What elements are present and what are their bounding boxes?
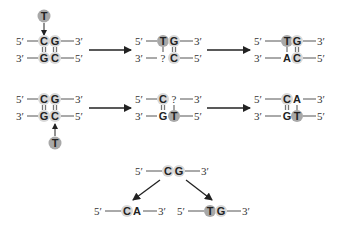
row1-panel-a: T 5′ C G 3′ 3′ G C 5′ <box>16 10 83 65</box>
svg-text:G: G <box>40 110 49 122</box>
svg-text:T: T <box>171 110 178 122</box>
row3-left-product: 5′ C A 3′ <box>94 205 166 217</box>
svg-text:5′: 5′ <box>94 205 102 217</box>
svg-text:3′: 3′ <box>194 93 202 105</box>
branch-arrow-left <box>133 180 160 200</box>
svg-text:5′: 5′ <box>317 52 325 64</box>
svg-text:C: C <box>51 110 59 122</box>
svg-text:C: C <box>164 165 172 177</box>
row2-panel-b: 5′ C ? 3′ 3′ G T 5′ <box>135 93 202 122</box>
svg-text:5′: 5′ <box>194 110 202 122</box>
svg-text:3′: 3′ <box>201 165 209 177</box>
svg-text:3′: 3′ <box>254 52 262 64</box>
svg-text:C: C <box>123 205 131 217</box>
incoming-t-label: T <box>52 137 59 149</box>
row3-right-product: 5′ T G 3′ <box>177 205 250 217</box>
svg-text:5′: 5′ <box>254 35 262 47</box>
row2-panel-c: 5′ C A 3′ 3′ G T 5′ <box>254 93 325 122</box>
svg-text:G: G <box>170 35 179 47</box>
svg-text:A: A <box>133 205 141 217</box>
svg-text:C: C <box>40 93 48 105</box>
svg-text:C: C <box>40 35 48 47</box>
row1-panel-b: 5′ T G 3′ 3′ ? C 5′ <box>135 35 202 64</box>
svg-text:G: G <box>40 52 49 64</box>
five-prime-label: 5′ <box>16 35 24 47</box>
svg-text:G: G <box>159 110 168 122</box>
incoming-t-label: T <box>41 10 48 22</box>
svg-text:5′: 5′ <box>317 110 325 122</box>
svg-text:3′: 3′ <box>158 205 166 217</box>
svg-text:5′: 5′ <box>75 52 83 64</box>
svg-text:5′: 5′ <box>194 52 202 64</box>
svg-text:3′: 3′ <box>135 52 143 64</box>
svg-text:3′: 3′ <box>317 35 325 47</box>
svg-text:G: G <box>175 165 184 177</box>
svg-text:3′: 3′ <box>242 205 250 217</box>
svg-text:A: A <box>283 52 291 64</box>
svg-text:C: C <box>170 52 178 64</box>
row3-parent: 5′ C G 3′ <box>135 165 209 177</box>
svg-text:T: T <box>207 205 214 217</box>
svg-text:3′: 3′ <box>135 110 143 122</box>
svg-text:T: T <box>160 35 167 47</box>
svg-text:5′: 5′ <box>177 205 185 217</box>
svg-text:3′: 3′ <box>75 93 83 105</box>
svg-text:C: C <box>159 93 167 105</box>
svg-text:G: G <box>217 205 226 217</box>
row1-panel-c: 5′ T G 3′ 3′ A C 5′ <box>254 35 325 64</box>
svg-text:G: G <box>293 35 302 47</box>
dna-mutation-diagram: T 5′ C G 3′ 3′ G C 5′ 5′ T G 3′ <box>0 0 340 226</box>
svg-text:5′: 5′ <box>135 165 143 177</box>
svg-text:A: A <box>293 93 301 105</box>
svg-text:3′: 3′ <box>194 35 202 47</box>
svg-text:5′: 5′ <box>16 93 24 105</box>
svg-text:C: C <box>293 52 301 64</box>
svg-text:5′: 5′ <box>75 110 83 122</box>
svg-text:3′: 3′ <box>317 93 325 105</box>
svg-text:T: T <box>284 35 291 47</box>
row2-panel-a: 5′ C G 3′ 3′ G C 5′ T <box>16 93 83 150</box>
svg-text:3′: 3′ <box>254 110 262 122</box>
svg-text:5′: 5′ <box>135 35 143 47</box>
svg-text:3′: 3′ <box>16 110 24 122</box>
svg-text:G: G <box>51 93 60 105</box>
svg-text:G: G <box>51 35 60 47</box>
svg-text:3′: 3′ <box>16 52 24 64</box>
unknown-base: ? <box>172 93 177 105</box>
svg-text:C: C <box>283 93 291 105</box>
unknown-base: ? <box>161 52 166 64</box>
three-prime-label: 3′ <box>75 35 83 47</box>
svg-text:C: C <box>51 52 59 64</box>
svg-text:T: T <box>294 110 301 122</box>
svg-text:5′: 5′ <box>135 93 143 105</box>
svg-text:5′: 5′ <box>254 93 262 105</box>
branch-arrow-right <box>186 180 212 200</box>
svg-text:G: G <box>283 110 292 122</box>
